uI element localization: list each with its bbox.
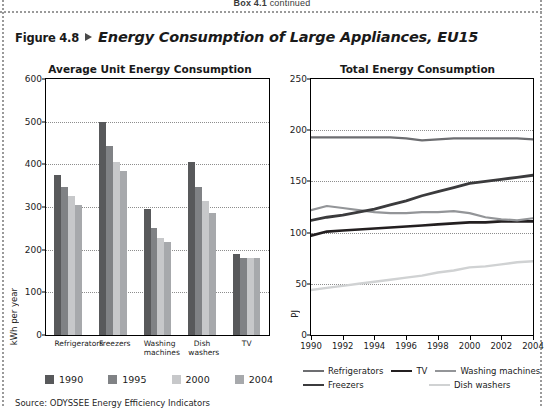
legend-item: Washing machines <box>435 366 540 376</box>
bar <box>144 209 151 335</box>
y-axis-tick-mark <box>42 79 46 80</box>
x-axis-tick-label: 2002 <box>490 341 512 351</box>
box-continued-word: continued <box>270 0 311 8</box>
legend-label: Washing machines <box>460 366 540 376</box>
line-series-svg <box>311 79 533 335</box>
y-axis-tick-label: 200 <box>290 125 307 135</box>
legend-label: 1990 <box>59 374 83 385</box>
y-axis-tick-mark <box>42 207 46 208</box>
box-label: Box 4.1 <box>234 0 267 8</box>
x-axis-tick-label: 1994 <box>364 341 386 351</box>
y-axis-tick-label: 100 <box>290 228 307 238</box>
x-axis-tick-mark <box>311 335 312 340</box>
x-axis-category-label: TV <box>233 339 261 348</box>
legend-row: FreezersDish washers <box>303 380 541 390</box>
y-axis-tick-mark <box>42 335 46 336</box>
line-series <box>311 175 533 220</box>
x-axis-tick-mark <box>501 335 502 340</box>
bar <box>113 162 120 335</box>
legend-line-swatch <box>303 384 324 386</box>
figure-title: Energy Consumption of Large Appliances, … <box>98 29 478 45</box>
figure-number: Figure 4.8 <box>15 31 79 45</box>
y-axis-tick-label: 400 <box>25 159 42 169</box>
y-axis-tick-label: 50 <box>296 279 307 289</box>
bar <box>233 254 240 335</box>
legend-label: TV <box>416 366 427 376</box>
legend-label: Freezers <box>328 380 364 390</box>
bar <box>54 175 61 335</box>
x-axis-tick-mark <box>406 335 407 340</box>
page-frame-top <box>0 11 544 13</box>
x-axis-category-label: Dish washers <box>188 339 216 357</box>
bar <box>164 242 171 335</box>
legend-label: 2000 <box>186 374 210 385</box>
y-axis-tick-label: 0 <box>301 330 307 340</box>
line-chart-legend: RefrigeratorsTVWashing machinesFreezersD… <box>303 366 541 390</box>
bar-group: Refrigerators <box>54 79 82 335</box>
figure-page: Box 4.1 continued Figure 4.8 Energy Cons… <box>0 0 544 408</box>
triangle-right-icon <box>85 33 92 41</box>
x-axis-tick-label: 2000 <box>459 341 481 351</box>
box-continued-header: Box 4.1 continued <box>0 0 544 8</box>
y-axis-tick-label: 500 <box>25 117 42 127</box>
legend-label: 1995 <box>122 374 146 385</box>
legend-line-swatch <box>435 370 456 372</box>
x-axis-tick-label: 1996 <box>395 341 417 351</box>
legend-item: Freezers <box>303 380 411 390</box>
bar-chart-plot-area: 0100200300400500600RefrigeratorsFreezers… <box>45 78 270 336</box>
bar <box>157 238 164 335</box>
bar <box>202 201 209 335</box>
bar <box>195 187 202 335</box>
line-chart-plot-area: 0501001502002501990199219941996199820002… <box>310 78 534 336</box>
y-axis-tick-mark <box>42 249 46 250</box>
legend-label: Dish washers <box>454 380 511 390</box>
bar <box>99 122 106 335</box>
line-series <box>311 206 533 220</box>
x-axis-tick-mark <box>374 335 375 340</box>
bar <box>209 213 216 335</box>
legend-swatch <box>172 375 181 384</box>
bar-group: TV <box>233 79 261 335</box>
legend-label: Refrigerators <box>328 366 383 376</box>
legend-item: 2000 <box>172 374 210 385</box>
bar <box>240 258 247 335</box>
page-frame-left <box>2 0 4 408</box>
legend-label: 2004 <box>249 374 273 385</box>
y-axis-tick-mark <box>42 292 46 293</box>
bar <box>151 228 158 335</box>
legend-line-swatch <box>391 370 412 372</box>
legend-line-swatch <box>303 370 324 372</box>
x-axis-tick-label: 2004 <box>522 341 544 351</box>
y-axis-tick-label: 300 <box>25 202 42 212</box>
legend-item: TV <box>391 366 427 376</box>
bar <box>254 258 261 335</box>
bar <box>61 187 68 335</box>
bar <box>120 171 127 335</box>
bar-chart-title: Average Unit Energy Consumption <box>30 63 270 75</box>
line-series <box>311 221 533 235</box>
x-axis-tick-mark <box>343 335 344 340</box>
x-axis-tick-label: 1992 <box>332 341 354 351</box>
legend-item: Dish washers <box>429 380 511 390</box>
legend-swatch <box>235 375 244 384</box>
x-axis-tick-label: 1990 <box>300 341 322 351</box>
y-axis-tick-label: 200 <box>25 245 42 255</box>
bar <box>188 162 195 335</box>
bar-group: Washing machines <box>144 79 172 335</box>
x-axis-tick-mark <box>438 335 439 340</box>
y-axis-tick-label: 250 <box>290 74 307 84</box>
y-axis-tick-label: 600 <box>25 74 42 84</box>
y-axis-tick-label: 0 <box>36 330 42 340</box>
line-series <box>311 137 533 140</box>
figure-caption: Figure 4.8 Energy Consumption of Large A… <box>15 29 478 45</box>
x-axis-category-label: Washing machines <box>144 339 172 357</box>
line-series <box>311 261 533 290</box>
legend-item: 2004 <box>235 374 273 385</box>
y-axis-tick-mark <box>42 121 46 122</box>
legend-swatch <box>45 375 54 384</box>
bar-group: Dish washers <box>188 79 216 335</box>
x-axis-tick-mark <box>470 335 471 340</box>
y-axis-tick-label: 150 <box>290 176 307 186</box>
bar <box>247 258 254 335</box>
x-axis-category-label: Refrigerators <box>54 339 82 348</box>
